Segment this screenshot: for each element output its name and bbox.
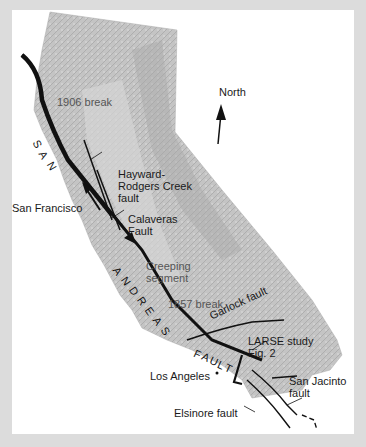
label-los-angeles: Los Angeles xyxy=(150,370,210,382)
label-calaveras-1: Calaveras xyxy=(128,213,178,225)
label-hayward-1: Hayward- xyxy=(118,168,165,180)
label-larse-2: Fig. 2 xyxy=(248,347,276,359)
label-hayward-3: fault xyxy=(118,192,139,204)
map-panel: North 1906 break S A N Hayward- Rodgers … xyxy=(12,10,354,434)
label-san-jacinto-2: fault xyxy=(289,387,310,399)
label-creeping-2: segment xyxy=(146,272,188,284)
label-1906-break: 1906 break xyxy=(57,96,112,108)
label-larse-1: LARSE study xyxy=(248,335,313,347)
compass-label: North xyxy=(219,86,246,98)
label-san-francisco: San Francisco xyxy=(12,202,82,214)
label-hayward-2: Rodgers Creek xyxy=(118,180,192,192)
label-san-jacinto-1: San Jacinto xyxy=(289,375,346,387)
label-creeping-1: Creeping xyxy=(146,260,191,272)
label-elsinore-fault: Elsinore fault xyxy=(174,407,238,419)
north-arrow-icon xyxy=(216,104,226,144)
label-calaveras-2: Fault xyxy=(128,225,152,237)
